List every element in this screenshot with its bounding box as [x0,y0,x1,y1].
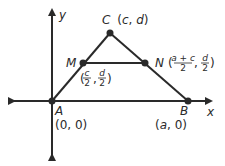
svg-text:c: c [85,68,90,78]
svg-text:): ) [210,56,215,70]
svg-text:2: 2 [202,63,208,73]
svg-text:,: , [194,56,198,70]
point-c [107,30,114,37]
point-n [142,60,149,67]
coord-m: ( c 2 , d 2 ) [80,68,112,88]
svg-text:,: , [93,72,97,86]
side-cb [110,33,188,101]
label-m: M [66,56,77,70]
side-ac [52,33,110,101]
svg-text:2: 2 [180,63,186,73]
svg-text:2: 2 [99,78,105,88]
svg-text:d: d [202,53,208,63]
coordinate-diagram: y x C (c, d) M ( c 2 , d 2 ) N ( a + c 2… [0,0,225,166]
svg-text:a + c: a + c [171,53,195,63]
x-axis-label: x [206,105,215,119]
label-c: C (c, d) [102,13,148,27]
coord-n: ( a + c 2 , d 2 ) [168,53,215,73]
svg-text:d: d [99,68,105,78]
coord-b: (a, 0) [155,118,187,132]
label-n: N [155,56,164,70]
point-m [80,60,87,67]
svg-text:): ) [107,72,112,86]
coord-a: (0, 0) [55,118,87,132]
svg-text:2: 2 [84,78,90,88]
label-b: B [180,104,188,118]
label-a: A [54,104,63,118]
y-axis-label: y [58,8,67,22]
